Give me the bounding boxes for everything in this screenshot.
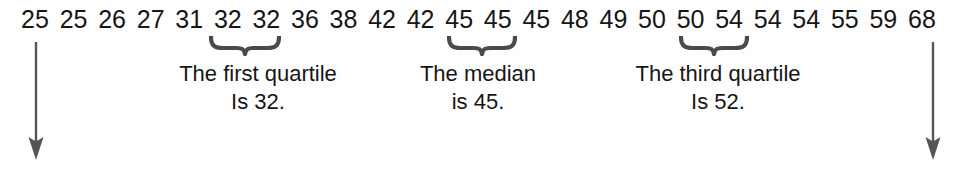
data-value: 54 (751, 4, 785, 34)
data-value: 68 (905, 4, 939, 34)
data-value-row: 25 25 26 27 31 32 32 36 38 42 42 45 45 4… (18, 4, 939, 38)
data-value: 27 (134, 4, 168, 34)
maximum-arrow-down-icon (922, 42, 944, 160)
data-value: 45 (481, 4, 515, 34)
data-value: 50 (635, 4, 669, 34)
data-value: 36 (288, 4, 322, 34)
median-brace (447, 36, 517, 56)
minimum-arrow-down-icon (25, 42, 47, 160)
data-value: 45 (442, 4, 476, 34)
data-value: 54 (789, 4, 823, 34)
data-value: 25 (18, 4, 52, 34)
data-value: 38 (327, 4, 361, 34)
data-value: 32 (211, 4, 245, 34)
third-quartile-brace (679, 36, 749, 56)
data-value: 31 (172, 4, 206, 34)
data-value: 42 (365, 4, 399, 34)
data-value: 42 (404, 4, 438, 34)
data-value: 26 (95, 4, 129, 34)
data-value: 32 (249, 4, 283, 34)
data-value: 25 (57, 4, 91, 34)
third-quartile-caption: The third quartile Is 52. (518, 60, 918, 116)
data-value: 48 (558, 4, 592, 34)
data-value: 55 (828, 4, 862, 34)
data-value: 45 (519, 4, 553, 34)
caption-line-2: Is 52. (518, 88, 918, 116)
data-value: 54 (712, 4, 746, 34)
quartile-number-line-figure: 25 25 26 27 31 32 32 36 38 42 42 45 45 4… (0, 0, 957, 170)
data-value: 49 (596, 4, 630, 34)
caption-line-1: The third quartile (518, 60, 918, 88)
data-value: 50 (674, 4, 708, 34)
data-value: 59 (866, 4, 900, 34)
first-quartile-brace (209, 36, 281, 56)
